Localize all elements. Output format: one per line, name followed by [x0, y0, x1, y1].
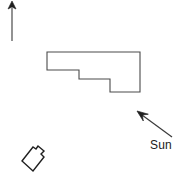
- canvas-background: [0, 0, 182, 184]
- site-plan-sketch-canvas: [0, 0, 182, 184]
- sun-label: Sun: [150, 139, 172, 152]
